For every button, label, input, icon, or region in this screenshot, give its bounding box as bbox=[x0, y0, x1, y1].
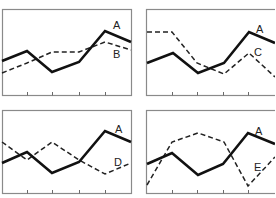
series-a-label: A bbox=[255, 125, 263, 137]
series-a-label: A bbox=[113, 19, 121, 31]
chart-grid: A B A C A D bbox=[0, 0, 275, 198]
panel-frame bbox=[147, 111, 276, 194]
series-a-label: A bbox=[115, 123, 123, 135]
series-b-line bbox=[2, 42, 131, 73]
panel-bottom-right: A E bbox=[147, 111, 276, 194]
panel-top-right: A C bbox=[147, 10, 276, 96]
series-d-label: D bbox=[114, 156, 122, 168]
series-e-line bbox=[147, 133, 275, 186]
series-e-label: E bbox=[254, 161, 261, 173]
series-c-label: C bbox=[254, 46, 262, 58]
panel-top-left: A B bbox=[2, 10, 132, 96]
panel-frame bbox=[3, 111, 132, 194]
series-d-line bbox=[2, 142, 131, 174]
series-a-line bbox=[2, 131, 131, 173]
panel-bottom-left: A D bbox=[2, 111, 132, 194]
series-b-label: B bbox=[113, 48, 120, 60]
series-a-label: A bbox=[256, 23, 264, 35]
